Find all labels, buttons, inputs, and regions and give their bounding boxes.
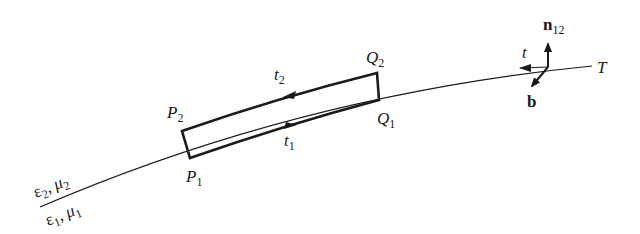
normal-n12-label: n12 xyxy=(543,15,564,37)
interface-curve xyxy=(40,66,592,207)
binormal-vector-arrow-icon xyxy=(532,67,548,86)
svg-text:ε2, μ2: ε2, μ2 xyxy=(30,171,72,205)
binormal-b-label: b xyxy=(527,92,536,111)
tangent-t-label: t xyxy=(522,43,528,62)
curve-t-label: T xyxy=(597,58,608,77)
tangent-t2-label: t2 xyxy=(274,65,285,87)
point-p1-label: P1 xyxy=(185,167,202,189)
medium-2-label: ε2, μ2 xyxy=(30,171,72,205)
point-p2-label: P2 xyxy=(166,103,183,125)
point-q2-label: Q2 xyxy=(366,48,384,70)
t-arrow-icon xyxy=(519,64,531,72)
interface-diagram: ε2, μ2 ε1, μ1 P2 P1 Q2 Q1 t2 t1 t n12 b … xyxy=(0,0,640,234)
tangent-t1-label: t1 xyxy=(284,131,295,153)
point-q1-label: Q1 xyxy=(377,109,395,131)
